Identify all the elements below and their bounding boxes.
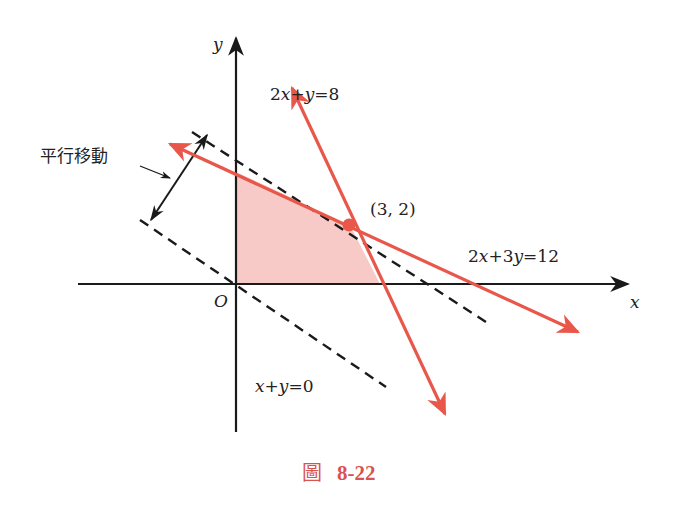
constraint-line-2x-3y-12: [170, 144, 578, 332]
optimal-point: [343, 219, 356, 232]
translation-leader: [140, 166, 170, 178]
label-2x-3y-12: 2x+3y=12: [468, 246, 559, 266]
linear-programming-diagram: y x O 2x+y=8 2x+3y=12 x+y=0 (3, 2) 平行移動 …: [0, 0, 685, 511]
label-2x-y-8: 2x+y=8: [270, 84, 339, 104]
caption-prefix: 圖: [302, 461, 322, 485]
label-x-y-0: x+y=0: [255, 376, 314, 396]
caption-number: 8-22: [337, 461, 376, 485]
x-axis-label: x: [630, 292, 640, 312]
origin-label: O: [214, 291, 228, 311]
y-axis-label: y: [212, 34, 223, 54]
point-label: (3, 2): [370, 199, 416, 219]
translation-label: 平行移動: [40, 146, 108, 166]
